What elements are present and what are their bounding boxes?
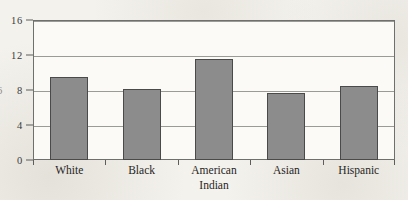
cropped-edge-glyph: 6 [0,85,4,96]
y-tick-label-4: 4 [17,120,23,131]
bar-slot-american-indian [178,20,250,160]
y-tick-mark-12 [26,55,33,56]
bar-slot-white [33,20,105,160]
x-label-hispanic: Hispanic [323,163,395,178]
bar-white[interactable] [50,77,88,160]
x-label-asian-line1: Asian [273,164,300,176]
bar-slot-hispanic [323,20,395,160]
bar-asian[interactable] [267,93,305,160]
bar-american-indian[interactable] [195,59,233,161]
y-tick-label-8: 8 [17,85,23,96]
y-axis: 16 12 8 4 0 [0,0,33,200]
bar-slot-black [105,20,177,160]
y-tick-mark-16 [26,20,33,21]
bar-black[interactable] [123,89,161,160]
y-tick-label-0: 0 [17,155,23,166]
bar-slot-asian [250,20,322,160]
y-tick-mark-4 [26,125,33,126]
x-label-black: Black [105,163,177,178]
x-label-black-line1: Black [128,164,155,176]
y-tick-label-16: 16 [11,15,23,26]
bar-hispanic[interactable] [340,86,378,160]
x-label-white: White [33,163,105,178]
y-tick-mark-0 [26,160,33,161]
x-axis-labels: White Black American Indian Asian Hispan… [33,163,395,200]
x-label-white-line1: White [55,164,83,176]
x-label-asian: Asian [250,163,322,178]
x-label-hispanic-line1: Hispanic [338,164,379,176]
y-tick-mark-8 [26,90,33,91]
y-tick-label-12: 12 [11,50,23,61]
x-label-american-indian-line2: Indian [178,178,250,193]
bar-series [33,20,395,160]
x-label-american-indian-line1: American [191,164,236,176]
x-label-american-indian: American Indian [178,163,250,192]
